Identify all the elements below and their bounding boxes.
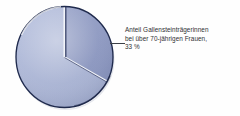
pie-chart-svg: [14, 4, 115, 110]
callout-label: Anteil Gallensteinträgerinnen bei über 7…: [125, 26, 237, 52]
callout-line-2: bei über 70-jährigen Frauen,: [125, 35, 237, 44]
callout-leader-line: [110, 43, 125, 44]
figure-canvas: Anteil Gallensteinträgerinnen bei über 7…: [0, 0, 240, 116]
pie-chart: [14, 4, 115, 110]
callout-line-3: 33 %: [125, 43, 237, 52]
callout-line-1: Anteil Gallensteinträgerinnen: [125, 26, 237, 35]
